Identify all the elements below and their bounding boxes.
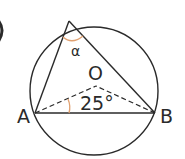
angle-alpha-arc xyxy=(63,36,83,41)
geometry-diagram: α O 25° A B xyxy=(0,0,185,159)
label-b: B xyxy=(160,105,173,127)
side-top-a xyxy=(35,21,69,113)
label-o: O xyxy=(88,62,103,84)
label-alpha: α xyxy=(71,43,80,59)
label-25deg: 25° xyxy=(80,92,114,114)
label-a: A xyxy=(17,105,30,127)
circle xyxy=(30,27,158,155)
angle-25-arc xyxy=(68,99,70,113)
partial-parenthesis xyxy=(0,20,2,42)
